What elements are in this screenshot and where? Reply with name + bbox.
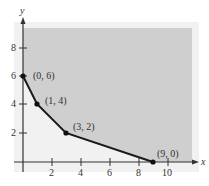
point-label: (9, 0) <box>157 148 179 160</box>
y-axis-arrow-icon <box>21 17 26 24</box>
point-label: (1, 4) <box>45 95 67 107</box>
y-tick-label: 8 <box>11 42 16 53</box>
vertex-point <box>63 130 68 135</box>
x-tick-label: 4 <box>78 167 83 178</box>
x-tick-label: 8 <box>136 167 141 178</box>
x-tick-label: 10 <box>162 167 172 178</box>
vertex-point <box>34 101 39 106</box>
vertex-point <box>20 73 25 78</box>
point-label: (3, 2) <box>73 121 95 133</box>
y-tick-label: 4 <box>11 98 16 109</box>
point-label: (0, 6) <box>33 70 55 82</box>
x-tick-label: 2 <box>49 167 54 178</box>
chart: y x 2 4 6 8 10 2 4 6 8 (0, 6) (1, 4) (3,… <box>0 0 209 186</box>
y-tick-label: 2 <box>11 127 16 138</box>
vertex-point <box>150 159 155 164</box>
x-tick-label: 6 <box>107 167 112 178</box>
y-tick-label: 6 <box>11 70 16 81</box>
y-axis-label: y <box>19 5 25 16</box>
x-axis-label: x <box>200 156 206 167</box>
